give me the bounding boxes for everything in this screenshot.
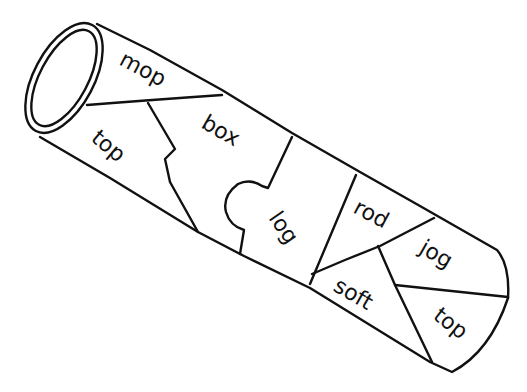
word-mop: mop [116, 46, 171, 91]
word-top-left: top [87, 125, 131, 167]
word-jog: jog [415, 234, 457, 273]
divider-soft-right [378, 246, 432, 362]
puzzle-words: mop top box log rod jog soft top [87, 46, 473, 344]
divider-mop-top [87, 95, 222, 105]
divider-top-box [148, 103, 198, 232]
tube-puzzle-drawing: mop top box log rod jog soft top [0, 0, 527, 392]
word-top-right: top [429, 302, 473, 344]
word-log: log [264, 207, 304, 249]
word-soft: soft [330, 273, 378, 315]
word-box: box [198, 110, 245, 152]
word-rod: rod [350, 194, 394, 233]
divider-jog-top [395, 285, 508, 297]
divider-log-rod [310, 175, 356, 284]
